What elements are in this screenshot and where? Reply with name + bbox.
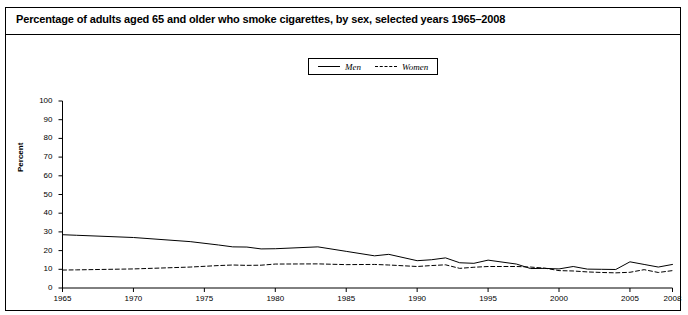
plot-area — [0, 0, 688, 315]
chart-figure: Percentage of adults aged 65 and older w… — [0, 0, 688, 315]
